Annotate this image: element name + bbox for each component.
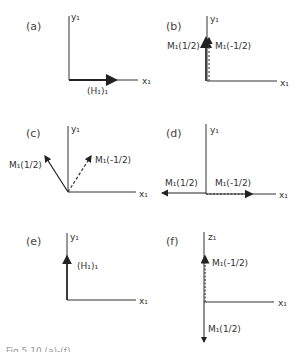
vector-label: M₁(1/2): [208, 324, 241, 334]
panel-c: (c) y₁ x₁ M₁(1/2) M₁(-1/2): [9, 124, 148, 199]
figure-caption: Fig.5.10 (a)-(f): [6, 344, 70, 352]
m-minus-half-arrow: [68, 156, 91, 192]
panel-label-d: (d): [166, 127, 182, 140]
panel-label-a: (a): [26, 20, 41, 33]
panel-d: (d) y₁ x₁ M₁(1/2) M₁(-1/2): [162, 124, 288, 200]
panel-label-f: (f): [166, 235, 178, 248]
x-axis-label: x₁: [142, 76, 151, 86]
x-axis-label: x₁: [279, 190, 288, 200]
y-axis-label: y₁: [210, 14, 219, 24]
panel-label-e: (e): [26, 235, 41, 248]
y-axis-label: y₁: [71, 124, 80, 134]
x-axis-label: x₁: [280, 78, 289, 88]
y-axis-label: y₁: [70, 232, 79, 242]
vector-label: M₁(1/2): [9, 160, 42, 170]
x-axis-label: x₁: [139, 296, 148, 306]
vector-label: (H₁)₁: [77, 261, 98, 271]
x-axis-label: x₁: [278, 298, 287, 308]
vector-label: M₁(-1/2): [212, 258, 248, 268]
vector-label: M₁(-1/2): [95, 155, 131, 165]
panel-label-b: (b): [166, 20, 182, 33]
panel-e: (e) y₁ x₁ (H₁)₁: [26, 232, 148, 306]
z-axis-label: z₁: [208, 232, 217, 242]
panel-f: (f) z₁ x₁ M₁(-1/2) M₁(1/2): [166, 232, 287, 342]
x-axis-label: x₁: [139, 189, 148, 199]
panel-label-c: (c): [26, 127, 41, 140]
vector-label: M₁(1/2): [167, 41, 200, 51]
vector-label: (H₁)₁: [87, 86, 108, 96]
y-axis-label: y₁: [71, 12, 80, 22]
m-plus-half-arrow: [45, 156, 68, 192]
y-axis-label: y₁: [210, 125, 219, 135]
vector-label: M₁(-1/2): [215, 178, 251, 188]
panel-a: (a) y₁ x₁ (H₁)₁: [26, 12, 151, 96]
vector-label: M₁(1/2): [165, 178, 198, 188]
vector-label: M₁(-1/2): [215, 41, 251, 51]
panel-b: (b) y₁ x₁ M₁(1/2) M₁(-1/2): [166, 14, 289, 88]
